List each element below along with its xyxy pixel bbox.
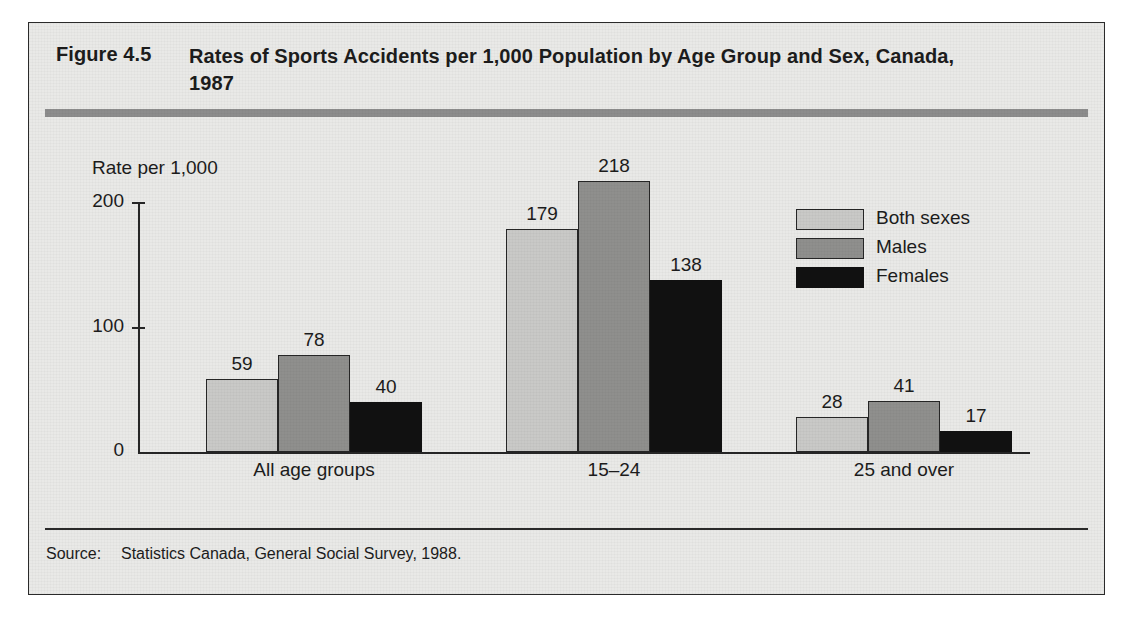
legend-swatch-both bbox=[796, 209, 864, 230]
y-axis-tick-label: 200 bbox=[29, 190, 124, 212]
bar-value-label: 218 bbox=[564, 155, 664, 177]
footer-rule bbox=[45, 528, 1088, 530]
source-text: Statistics Canada, General Social Survey… bbox=[121, 545, 461, 563]
bar-both bbox=[206, 379, 278, 452]
bar-both bbox=[506, 229, 578, 452]
y-axis-title: Rate per 1,000 bbox=[92, 157, 218, 179]
figure-page: Figure 4.5 Rates of Sports Accidents per… bbox=[0, 0, 1139, 630]
bar-value-label: 59 bbox=[192, 353, 292, 375]
legend-label: Both sexes bbox=[876, 207, 970, 229]
legend-swatch-male bbox=[796, 238, 864, 259]
figure-panel: Figure 4.5 Rates of Sports Accidents per… bbox=[28, 22, 1105, 595]
bar-both bbox=[796, 417, 868, 452]
y-axis-line bbox=[138, 204, 140, 453]
legend-label: Males bbox=[876, 236, 927, 258]
bar-value-label: 41 bbox=[854, 375, 954, 397]
bar-value-label: 138 bbox=[636, 254, 736, 276]
bar-female bbox=[940, 431, 1012, 452]
y-axis-tick bbox=[132, 327, 145, 329]
y-axis-tick bbox=[132, 202, 145, 204]
bar-chart-plot: Rate per 1,000 0100200597840All age grou… bbox=[29, 23, 1106, 596]
legend-label: Females bbox=[876, 265, 949, 287]
bar-value-label: 17 bbox=[926, 405, 1026, 427]
x-axis-group-label: 25 and over bbox=[796, 459, 1012, 481]
bar-male bbox=[278, 355, 350, 452]
y-axis-tick-label: 100 bbox=[29, 315, 124, 337]
bar-male bbox=[578, 181, 650, 452]
bar-female bbox=[650, 280, 722, 452]
source-label: Source: bbox=[46, 545, 101, 563]
x-axis-group-label: All age groups bbox=[206, 459, 422, 481]
x-axis-line bbox=[138, 452, 1030, 454]
x-axis-group-label: 15–24 bbox=[506, 459, 722, 481]
legend-swatch-female bbox=[796, 267, 864, 288]
bar-value-label: 179 bbox=[492, 203, 592, 225]
bar-female bbox=[350, 402, 422, 452]
bar-value-label: 40 bbox=[336, 376, 436, 398]
bar-value-label: 78 bbox=[264, 329, 364, 351]
y-axis-tick-label: 0 bbox=[29, 439, 124, 461]
